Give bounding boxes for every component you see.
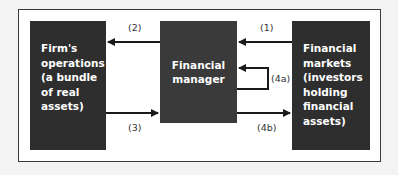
arrow-4a <box>237 68 268 89</box>
arrow-label-4a: (4a) <box>271 73 290 84</box>
arrow-label-3: (3) <box>128 122 141 133</box>
arrow-label-1: (1) <box>260 22 273 33</box>
arrow-label-2: (2) <box>128 22 141 33</box>
arrows-layer <box>0 0 398 175</box>
arrow-label-4b: (4b) <box>257 122 277 133</box>
